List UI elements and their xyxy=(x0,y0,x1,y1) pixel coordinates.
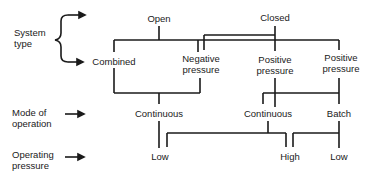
node-line: Positive xyxy=(316,52,366,63)
arrow-icon xyxy=(65,154,84,160)
diagram-connectors xyxy=(0,0,371,177)
row-label-line: System xyxy=(14,27,46,38)
row-label-mode-of-operation: Mode of operation xyxy=(12,107,52,129)
node-line: Positive xyxy=(250,54,300,65)
row-label-line: operation xyxy=(12,118,52,129)
node-line: pressure xyxy=(316,63,366,74)
node-low-2: Low xyxy=(327,151,351,162)
node-negative-pressure: Negative pressure xyxy=(176,53,226,75)
node-positive-pressure-2: Positive pressure xyxy=(316,52,366,74)
row-label-system-type: System type xyxy=(14,27,46,49)
row-label-operating-pressure: Operating pressure xyxy=(12,149,54,171)
node-line: Negative xyxy=(176,53,226,64)
node-continuous-1: Continuous xyxy=(129,108,189,119)
node-closed: Closed xyxy=(255,12,295,23)
row-label-line: Operating xyxy=(12,149,54,160)
row-label-line: pressure xyxy=(12,160,54,171)
arrow-icon xyxy=(68,59,83,65)
node-line: pressure xyxy=(250,65,300,76)
node-open: Open xyxy=(139,13,179,24)
arrow-icon xyxy=(65,111,84,117)
row-label-line: type xyxy=(14,38,46,49)
node-positive-pressure-1: Positive pressure xyxy=(250,54,300,76)
node-line: pressure xyxy=(176,64,226,75)
node-batch: Batch xyxy=(319,108,359,119)
node-continuous-2: Continuous xyxy=(238,108,298,119)
node-low-1: Low xyxy=(148,151,172,162)
row-label-line: Mode of xyxy=(12,107,52,118)
node-high: High xyxy=(277,151,303,162)
node-combined: Combined xyxy=(89,56,139,67)
brace-icon xyxy=(55,15,68,62)
arrow-icon xyxy=(68,12,85,18)
